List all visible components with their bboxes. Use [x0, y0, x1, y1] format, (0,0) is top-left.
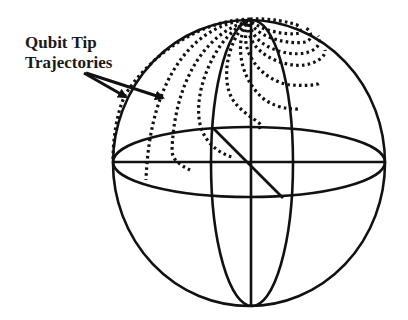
bloch-sphere-diagram — [0, 0, 408, 320]
label-arrows — [84, 73, 163, 98]
